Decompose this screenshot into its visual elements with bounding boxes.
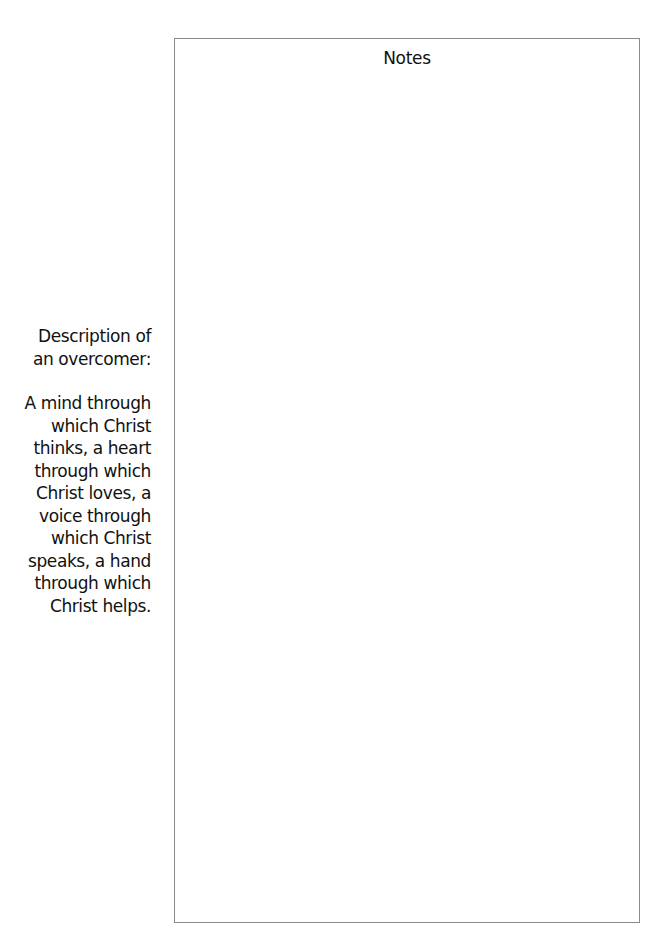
body-line: Christ helps.	[50, 596, 151, 616]
description-heading: Description of an overcomer:	[0, 325, 151, 370]
notes-title: Notes	[175, 48, 639, 68]
body-line: which Christ	[51, 416, 151, 436]
body-line: Christ loves, a	[36, 483, 151, 503]
body-line: voice through	[39, 506, 151, 526]
notes-writing-area[interactable]	[181, 79, 633, 916]
notes-box: Notes	[174, 38, 640, 923]
body-line: through which	[34, 461, 151, 481]
body-line: thinks, a heart	[33, 438, 151, 458]
body-line: A mind through	[25, 393, 151, 413]
description-body: A mind through which Christ thinks, a he…	[0, 392, 151, 617]
body-line: which Christ	[51, 528, 151, 548]
heading-line: Description of	[38, 326, 151, 346]
overcomer-description: Description of an overcomer: A mind thro…	[0, 325, 151, 617]
heading-line: an overcomer:	[33, 349, 151, 369]
body-line: through which	[34, 573, 151, 593]
body-line: speaks, a hand	[28, 551, 151, 571]
